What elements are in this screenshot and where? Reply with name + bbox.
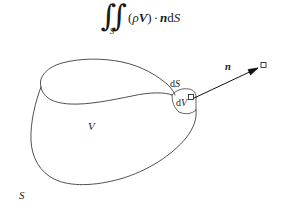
surface-label-S: S [19,190,25,201]
arrow-tip-square-marker [261,63,266,68]
patch-point-square-marker [189,95,194,100]
closed-surface-outline [40,59,175,104]
normal-vector-shaft [192,68,258,99]
normal-vector-label-n: n [225,62,231,73]
dS-S: S [175,78,180,89]
volume-element-label-dV: dV [176,98,187,108]
dV-V: V [181,97,187,108]
blob-diagram-svg [0,0,281,216]
figure-root: ∫∫ S (ρV)·ndS V S dS dV n [0,0,281,216]
volume-label-V: V [88,121,95,132]
area-element-label-dS: dS [170,79,180,89]
volume-element-dV-bottom-edge [179,110,196,114]
normal-vector-arrowhead [248,68,258,75]
